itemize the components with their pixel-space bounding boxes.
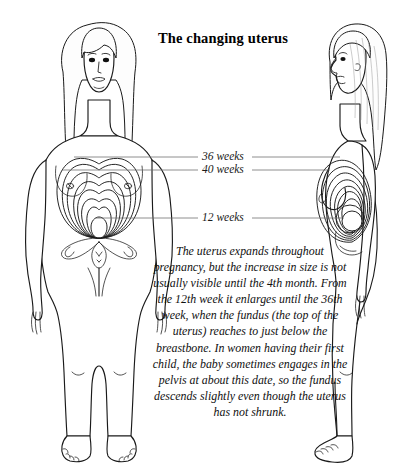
illustration-page: .ol { fill:none; stroke:#1a1a1a; stroke-…	[0, 0, 406, 476]
front-right-eye	[103, 58, 109, 62]
front-left-arm	[26, 160, 46, 320]
side-neck	[340, 104, 366, 141]
front-view-figure	[26, 23, 173, 462]
label-36-weeks: 36 weeks	[202, 150, 244, 162]
front-neck	[80, 100, 118, 136]
side-uterus-12w	[342, 211, 362, 231]
caption-text: The uterus expands throughout pregnancy,…	[152, 243, 348, 420]
front-left-eye	[89, 58, 95, 62]
label-40-weeks: 40 weeks	[202, 163, 244, 175]
side-foot	[315, 436, 353, 462]
label-12-weeks: 12 weeks	[202, 211, 244, 223]
page-title: The changing uterus	[138, 30, 308, 47]
front-uterus-12w	[91, 217, 107, 238]
side-eye	[340, 57, 345, 61]
